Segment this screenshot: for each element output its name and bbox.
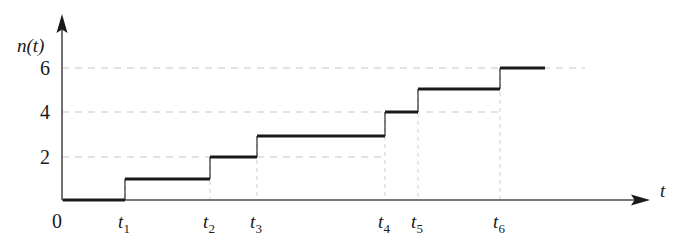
xtick-label-t1: t1	[118, 211, 130, 236]
x-axis-label: t	[660, 180, 666, 201]
y-axis-label: n(t)	[17, 35, 44, 57]
xtick-sub-t5: 5	[416, 221, 423, 236]
ytick-label-6: 6	[40, 57, 50, 79]
xtick-sub-t4: 4	[383, 221, 390, 236]
gridlines	[62, 68, 585, 157]
xtick-sub-t3: 3	[255, 221, 262, 236]
xtick-label-t2: t2	[203, 211, 215, 236]
origin-label: 0	[52, 210, 62, 232]
ytick-label-4: 4	[40, 101, 50, 123]
xtick-sub-t1: 1	[123, 221, 130, 236]
xtick-label-t3: t3	[250, 211, 262, 236]
xtick-sub-t6: 6	[498, 221, 505, 236]
x-tick-labels: t1 t2 t3 t4 t5 t6	[118, 211, 505, 236]
y-axis	[57, 14, 68, 200]
xtick-label-t5: t5	[411, 211, 423, 236]
step-function-line	[63, 68, 545, 200]
xtick-label-t4: t4	[378, 211, 390, 236]
xtick-label-t6: t6	[493, 211, 505, 236]
xtick-sub-t2: 2	[208, 221, 215, 236]
step-function-chart: n(t) t 6 4 2 0 t1 t2 t3 t4 t5 t6	[0, 0, 686, 246]
x-axis	[62, 195, 650, 206]
ytick-label-2: 2	[40, 146, 50, 168]
chart-canvas: n(t) t 6 4 2 0 t1 t2 t3 t4 t5 t6	[0, 0, 686, 246]
